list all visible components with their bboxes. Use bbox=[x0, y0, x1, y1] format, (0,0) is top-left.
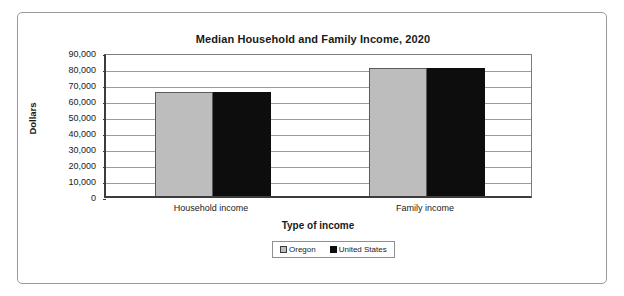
y-axis-tick-label: 30,000 bbox=[40, 145, 96, 155]
y-axis-tick-mark bbox=[103, 135, 106, 136]
y-axis-tick-mark bbox=[103, 119, 106, 120]
legend-entry-oregon: Oregon bbox=[280, 245, 316, 254]
y-axis-tick-mark bbox=[103, 199, 106, 200]
bar-united-states-household-income bbox=[213, 92, 271, 196]
y-axis-tick-mark bbox=[103, 151, 106, 152]
y-axis-tick-label: 70,000 bbox=[40, 81, 96, 91]
x-axis-category-label: Family income bbox=[396, 203, 454, 213]
chart-frame: Median Household and Family Income, 2020… bbox=[17, 12, 607, 284]
y-axis-tick-labels: 90,00080,00070,00060,00050,00040,00030,0… bbox=[40, 54, 96, 198]
y-axis-tick-label: 40,000 bbox=[40, 129, 96, 139]
y-axis-tick-label: 90,000 bbox=[40, 49, 96, 59]
y-axis-tick-label: 10,000 bbox=[40, 177, 96, 187]
bar-united-states-family-income bbox=[427, 68, 485, 196]
legend-swatch-united-states bbox=[330, 246, 337, 253]
y-axis-tick-label: 60,000 bbox=[40, 97, 96, 107]
y-axis-tick-mark bbox=[103, 167, 106, 168]
legend-entry-united-states: United States bbox=[330, 245, 387, 254]
y-axis-tick-label: 80,000 bbox=[40, 65, 96, 75]
x-axis-title: Type of income bbox=[104, 220, 532, 231]
legend-label: Oregon bbox=[289, 245, 316, 254]
chart-legend: OregonUnited States bbox=[272, 241, 395, 258]
chart-title: Median Household and Family Income, 2020 bbox=[18, 33, 608, 45]
y-axis-tick-mark bbox=[103, 71, 106, 72]
y-axis-title: Dollars bbox=[27, 74, 38, 164]
legend-label: United States bbox=[339, 245, 387, 254]
legend-swatch-oregon bbox=[280, 246, 287, 253]
plot-area bbox=[104, 54, 532, 198]
y-axis-tick-mark bbox=[103, 183, 106, 184]
y-axis-tick-label: 20,000 bbox=[40, 161, 96, 171]
y-axis-tick-label: 0 bbox=[40, 193, 96, 203]
y-axis-tick-mark bbox=[103, 103, 106, 104]
bar-oregon-family-income bbox=[369, 68, 427, 196]
y-axis-tick-mark bbox=[103, 55, 106, 56]
x-axis-category-label: Household income bbox=[174, 203, 249, 213]
y-axis-tick-label: 50,000 bbox=[40, 113, 96, 123]
y-axis-tick-mark bbox=[103, 87, 106, 88]
bar-oregon-household-income bbox=[155, 92, 213, 196]
